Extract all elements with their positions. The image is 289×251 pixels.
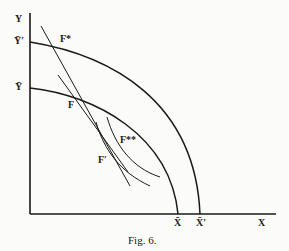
f-star-label: F*: [60, 34, 71, 44]
y-axis-label: Y: [15, 14, 22, 24]
figure-caption: Fig. 6.: [128, 234, 156, 246]
tangent-line-inner: [58, 75, 128, 172]
diagram-canvas: [0, 0, 289, 251]
y-bar-prime-label: Ȳ′: [14, 36, 24, 46]
inner-frontier-curve: [30, 88, 178, 214]
f-prime-label: F′: [98, 155, 107, 165]
y-bar-label: Ȳ: [15, 82, 22, 92]
outer-frontier-curve: [30, 42, 200, 214]
f-label: F: [68, 100, 74, 110]
x-bar-label: X̄: [174, 218, 181, 228]
x-bar-prime-label: X̄′: [196, 218, 206, 228]
indifference-curve-f-double-star: [107, 117, 160, 177]
x-axis-label: X: [258, 218, 265, 228]
f-double-star-label: F**: [120, 135, 136, 145]
